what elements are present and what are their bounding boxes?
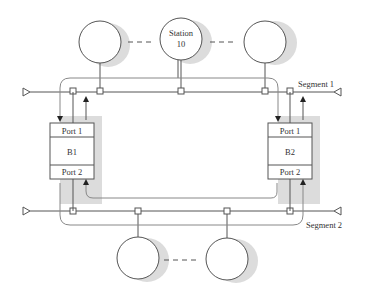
station-circle: [79, 21, 121, 63]
up-arrow-icon: [300, 96, 306, 102]
bus-taps: [70, 88, 293, 214]
up-arrow-icon: [83, 96, 89, 102]
b1-port1-label: Port 1: [62, 126, 83, 136]
segment2-right-terminator: [334, 207, 341, 215]
b1-label: B1: [67, 147, 77, 157]
segment2-left-terminator: [23, 207, 30, 215]
segment1-label: Segment 1: [298, 79, 334, 89]
station-10-label-line2: 10: [177, 39, 186, 49]
segment1-left-terminator: [23, 88, 30, 96]
bridge-diagram: Station 10 Port 1 B1 Port 2 Port 1 B2 Po…: [0, 0, 365, 298]
segment1-right-terminator: [334, 88, 341, 96]
station-circle: [117, 237, 159, 279]
b2-label: B2: [285, 147, 295, 157]
b1-port2-label: Port 2: [62, 167, 83, 177]
frame-path-to-b2: [178, 78, 278, 118]
segment2-label: Segment 2: [306, 220, 342, 230]
b2-port2-label: Port 2: [280, 167, 301, 177]
station-circle: [244, 21, 286, 63]
b2-port1-label: Port 1: [280, 126, 301, 136]
frame-path-to-b1: [60, 78, 178, 118]
station-circle: [206, 238, 248, 280]
station-10-label-line1: Station: [169, 28, 194, 38]
b2-to-b1-loop: [86, 183, 277, 198]
